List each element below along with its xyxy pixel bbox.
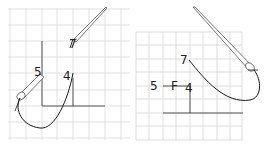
label-4-right: 4: [185, 81, 193, 95]
stitch-diagram: 7 5 4: [0, 0, 264, 146]
panel-right: 7 5 F 4: [136, 7, 260, 140]
label-7-left: 7: [69, 37, 77, 51]
label-4-left: 4: [63, 69, 71, 83]
label-5-right: 5: [150, 79, 158, 93]
label-5-left: 5: [34, 65, 42, 79]
label-f-right: F: [171, 79, 178, 93]
panel-left: 7 5 4: [8, 7, 130, 140]
needle-lower-left: [15, 74, 44, 111]
label-7-right: 7: [180, 53, 188, 67]
